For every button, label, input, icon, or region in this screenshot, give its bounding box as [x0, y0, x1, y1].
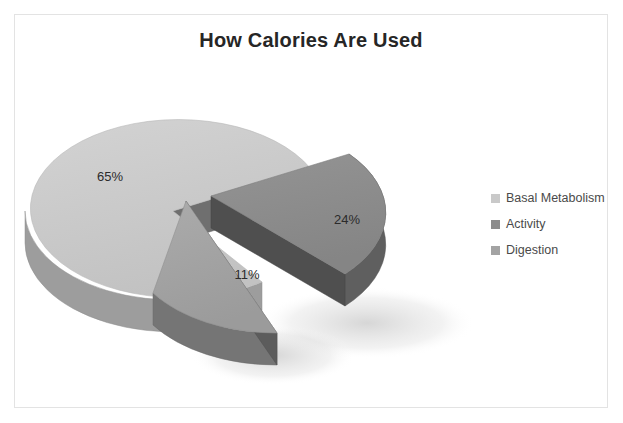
legend-swatch-icon — [491, 194, 500, 203]
page-title: How Calories Are Used — [15, 29, 607, 52]
pie-chart-svg: 65% 24% 11% — [15, 61, 485, 391]
pie-label-digestion: 11% — [234, 267, 259, 282]
pie-label-basal-metabolism: 65% — [97, 169, 123, 184]
pie-chart-plot-area: 65% 24% 11% — [15, 61, 485, 391]
legend-label-activity: Activity — [506, 218, 546, 231]
pie-label-activity: 24% — [334, 212, 360, 227]
legend-swatch-icon — [491, 246, 500, 255]
legend-label-basal-metabolism: Basal Metabolism — [506, 192, 605, 205]
chart-legend: Basal Metabolism Activity Digestion — [491, 185, 621, 263]
legend-item-basal-metabolism[interactable]: Basal Metabolism — [491, 185, 621, 211]
chart-frame: How Calories Are Used — [14, 14, 608, 408]
legend-item-digestion[interactable]: Digestion — [491, 237, 621, 263]
legend-label-digestion: Digestion — [506, 244, 558, 257]
legend-item-activity[interactable]: Activity — [491, 211, 621, 237]
legend-swatch-icon — [491, 220, 500, 229]
